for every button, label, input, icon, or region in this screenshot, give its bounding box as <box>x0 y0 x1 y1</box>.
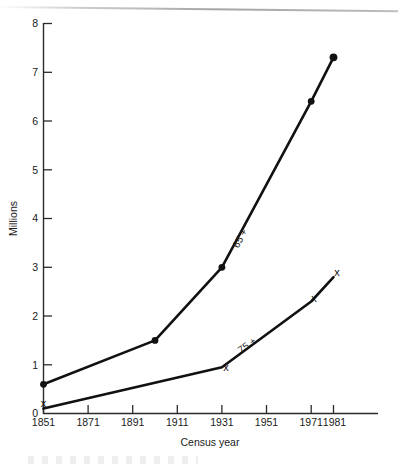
y-tick-label: 4 <box>32 212 38 224</box>
y-tick-label: 7 <box>32 66 38 78</box>
series-65-plus <box>40 53 337 387</box>
y-axis-ticks <box>44 24 53 365</box>
data-point-marker-x: x <box>223 361 229 373</box>
series-label-75-plus: 75 + <box>236 335 259 356</box>
y-tick-label: 8 <box>32 17 38 29</box>
y-tick-label: 2 <box>32 310 38 322</box>
x-tick-label: 1931 <box>210 416 234 428</box>
chart-figure: 8 7 6 5 4 3 2 1 0 1851 1871 1891 1911 <box>0 0 398 466</box>
x-axis-tick-labels: 1851 1871 1891 1911 1931 1951 1971 1981 <box>32 416 347 428</box>
series-65-plus-line <box>44 57 334 384</box>
x-tick-label: 1981 <box>323 416 347 428</box>
x-axis-ticks <box>44 405 334 414</box>
data-point-marker <box>330 53 338 61</box>
y-axis-title: Millions <box>7 201 19 236</box>
x-tick-label: 1971 <box>300 416 324 428</box>
series-75-plus: x x x x <box>41 266 341 409</box>
y-tick-label: 6 <box>32 115 38 127</box>
x-tick-label: 1891 <box>121 416 145 428</box>
data-point-marker <box>40 381 47 388</box>
x-tick-label: 1871 <box>76 416 100 428</box>
series-label-65-plus: 65 + <box>230 227 249 250</box>
x-axis-title: Census year <box>181 436 240 448</box>
data-point-marker <box>308 98 315 105</box>
x-tick-label: 1951 <box>255 416 279 428</box>
data-point-marker-x: x <box>311 292 317 304</box>
x-tick-label: 1851 <box>32 416 56 428</box>
data-point-marker <box>219 264 226 271</box>
data-point-marker-x: x <box>41 397 47 409</box>
line-chart-plot: 8 7 6 5 4 3 2 1 0 1851 1871 1891 1911 <box>0 0 398 466</box>
y-tick-label: 5 <box>32 164 38 176</box>
data-point-marker <box>152 337 159 344</box>
x-tick-label: 1911 <box>166 416 189 428</box>
chart-axes <box>44 23 379 414</box>
y-axis-tick-labels: 8 7 6 5 4 3 2 1 0 <box>32 17 38 419</box>
series-75-plus-line <box>44 277 334 409</box>
y-tick-label: 3 <box>32 261 38 273</box>
y-tick-label: 1 <box>32 359 38 371</box>
data-point-marker-x: x <box>334 266 340 278</box>
